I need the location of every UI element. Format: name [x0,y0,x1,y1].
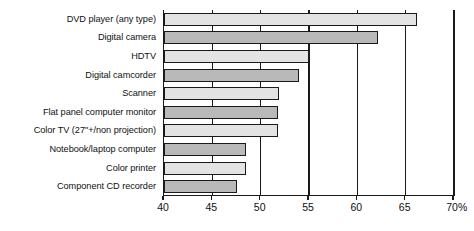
x-tick-label: 40 [157,201,169,213]
x-tick-60 [356,196,357,200]
plot-area [163,10,453,196]
bar-chart: DVD player (any type)Digital cameraHDTVD… [0,0,474,231]
bar [164,13,417,26]
bar [164,69,299,82]
category-label: Component CD recorder [0,182,156,191]
category-label: Color TV (27"+/non projection) [0,126,156,135]
bar [164,143,246,156]
gridline-70 [453,10,454,196]
x-tick-label: 50 [254,201,266,213]
category-label: Scanner [0,89,156,98]
category-label: Flat panel computer monitor [0,108,156,117]
bar [164,106,278,119]
category-label: Notebook/laptop computer [0,145,156,154]
bar [164,87,279,100]
x-tick-label: 65 [399,201,411,213]
x-axis: 40455055606570% [163,196,455,218]
gridline-65 [405,10,406,196]
bar [164,31,378,44]
x-tick-45 [211,196,212,200]
x-tick-50 [259,196,260,200]
category-label: DVD player (any type) [0,15,156,24]
x-tick-65 [404,196,405,200]
x-tick-label: 60 [350,201,362,213]
category-axis-labels: DVD player (any type)Digital cameraHDTVD… [0,10,160,196]
bar [164,162,246,175]
category-label: HDTV [0,52,156,61]
category-label: Color printer [0,164,156,173]
bar [164,124,278,137]
x-tick-label: 70% [446,201,467,213]
bar [164,180,237,193]
x-tick-40 [162,196,163,200]
category-label: Digital camera [0,33,156,42]
x-tick-55 [307,196,308,200]
x-tick-70 [452,196,453,200]
bar [164,50,309,63]
category-label: Digital camcorder [0,71,156,80]
x-tick-label: 55 [302,201,314,213]
x-tick-label: 45 [205,201,217,213]
